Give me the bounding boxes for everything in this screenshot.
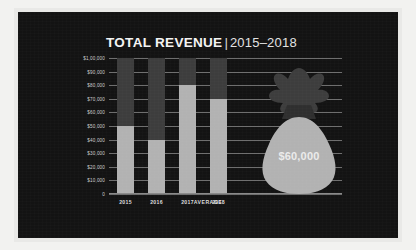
bar-2015[interactable] xyxy=(117,58,134,194)
bag-neck-shape xyxy=(282,105,316,119)
bar-2016[interactable] xyxy=(148,58,165,194)
bar-fill xyxy=(210,99,227,194)
bar-2017[interactable] xyxy=(179,58,196,194)
bar-fill xyxy=(179,85,196,194)
bag-body-shape xyxy=(262,117,335,194)
chart-frame: TOTAL REVENUE|2015–2018 0$10,000$20,000$… xyxy=(14,8,402,242)
y-axis-tick-label: 0 xyxy=(102,192,105,197)
y-axis-tick-label: $90,000 xyxy=(87,69,105,74)
average-category-label: AVERAGE xyxy=(18,199,398,205)
y-axis-tick-label: $50,000 xyxy=(87,124,105,129)
y-axis-tick-label: $60,000 xyxy=(87,110,105,115)
y-axis-tick-label: $30,000 xyxy=(87,151,105,156)
y-axis-tick-label: $70,000 xyxy=(87,96,105,101)
bar-fill xyxy=(148,140,165,194)
chart-title-subtitle: 2015–2018 xyxy=(230,35,297,50)
y-axis-tick-label: $10,000 xyxy=(87,178,105,183)
y-axis-tick-label: $20,000 xyxy=(87,164,105,169)
bar-fill xyxy=(117,126,134,194)
money-bag-icon: $60,000 xyxy=(256,62,342,196)
screenshot-root: TOTAL REVENUE|2015–2018 0$10,000$20,000$… xyxy=(0,0,416,250)
chart-panel: TOTAL REVENUE|2015–2018 0$10,000$20,000$… xyxy=(18,12,398,238)
chart-title-main: TOTAL REVENUE xyxy=(106,35,222,50)
y-axis-tick-label: $40,000 xyxy=(87,137,105,142)
chart-title: TOTAL REVENUE|2015–2018 xyxy=(106,34,297,50)
chart-title-separator: | xyxy=(224,35,228,50)
y-axis-tick-label: $1,00,000 xyxy=(83,56,105,61)
y-axis-tick-label: $80,000 xyxy=(87,83,105,88)
bar-2018[interactable] xyxy=(210,58,227,194)
